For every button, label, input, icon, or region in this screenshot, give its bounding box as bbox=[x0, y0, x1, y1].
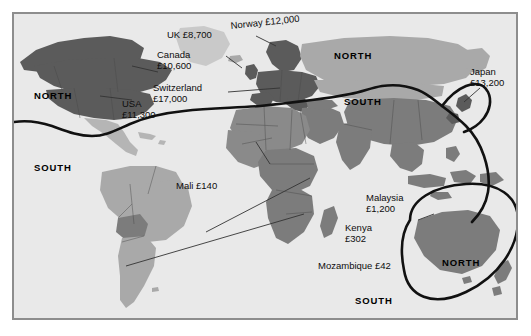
landmass-greenland bbox=[176, 26, 230, 66]
landmass-russia bbox=[300, 36, 476, 86]
landmass-madagascar bbox=[320, 206, 338, 238]
landmass-caribbean bbox=[138, 132, 166, 145]
landmass-central-africa bbox=[258, 148, 318, 194]
landmass-tasmania bbox=[462, 276, 472, 284]
landmass-southern-cone bbox=[118, 236, 156, 308]
landmass-australia bbox=[414, 210, 500, 274]
leader-line-norway bbox=[256, 36, 276, 46]
landmass-ne-russia bbox=[466, 48, 490, 74]
landmass-southern-africa bbox=[266, 188, 314, 244]
landmass-uk bbox=[245, 64, 258, 80]
map-graphic bbox=[14, 14, 516, 318]
landmass-india bbox=[336, 122, 372, 170]
landmass-usa bbox=[46, 88, 154, 120]
landmass-scandinavia bbox=[266, 40, 302, 72]
landmass-philippines bbox=[446, 146, 460, 162]
landmass-group bbox=[20, 26, 512, 308]
landmass-se-asia bbox=[390, 142, 424, 172]
landmass-falklands bbox=[152, 287, 159, 292]
world-map-figure: NORTH SOUTH NORTH SOUTH SOUTH NORTH UK £… bbox=[0, 0, 531, 336]
map-frame: NORTH SOUTH NORTH SOUTH SOUTH NORTH UK £… bbox=[12, 12, 518, 320]
